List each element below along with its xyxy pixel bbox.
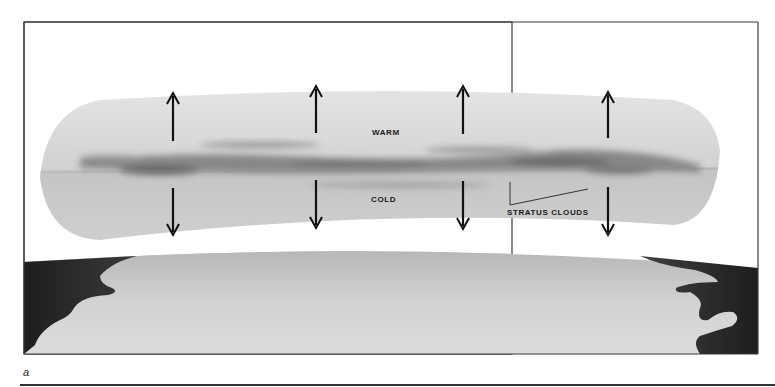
atmospheric-cross-section-figure: WARM COLD STRATUS CLOUDS: [0, 0, 775, 387]
warm-label: WARM: [372, 128, 400, 137]
stratus-clouds-label: STRATUS CLOUDS: [507, 208, 589, 217]
cold-label: COLD: [371, 195, 396, 204]
bottom-rule: [20, 384, 775, 386]
panel-letter: a: [23, 366, 29, 378]
atmosphere-band: [30, 80, 730, 260]
ground-surface-full: [24, 251, 758, 354]
